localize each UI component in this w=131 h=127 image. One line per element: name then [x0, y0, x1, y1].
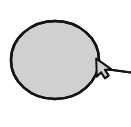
figure-canvas — [0, 0, 131, 127]
callout-diagram — [0, 0, 131, 127]
